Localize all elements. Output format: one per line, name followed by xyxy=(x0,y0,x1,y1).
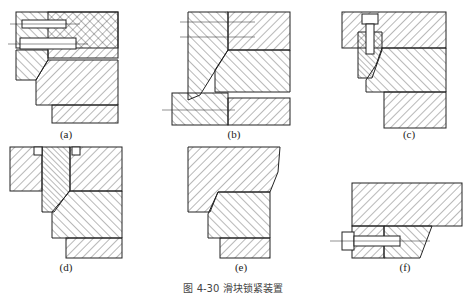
panel-e xyxy=(188,147,280,258)
panel-c xyxy=(342,12,446,128)
panel-a xyxy=(8,12,118,123)
panel-e-label: (e) xyxy=(235,261,247,273)
panel-d xyxy=(10,147,122,258)
panel-f xyxy=(330,183,462,258)
panel-b xyxy=(162,12,290,125)
panel-a-label: (a) xyxy=(60,128,72,140)
panel-c-label: (c) xyxy=(403,128,415,140)
figure-caption: 图 4-30 滑块锁紧装置 xyxy=(183,280,282,295)
panel-d-label: (d) xyxy=(60,261,73,273)
panel-b-label: (b) xyxy=(228,128,241,140)
panel-f-label: (f) xyxy=(400,261,411,273)
